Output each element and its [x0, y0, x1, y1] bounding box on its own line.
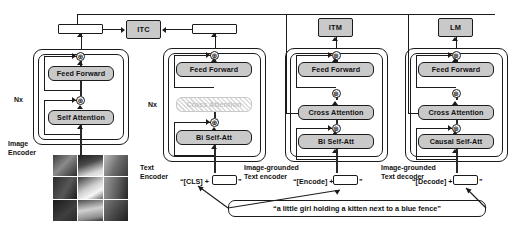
objective-itm[interactable]: ITM: [318, 18, 353, 37]
text-encoder-spine-mid: [214, 112, 216, 118]
grounded-text-encoder-cross-attention-label: Cross Attention: [308, 109, 363, 116]
wire-image-token-to-itc-arrow: [121, 27, 125, 33]
image-encoder-add-attn: ⊕: [76, 96, 85, 105]
image-patch: [53, 200, 77, 221]
image-encoder-output-arrow: [77, 33, 83, 37]
image-encoder-skip-ff-bottom: [44, 90, 80, 91]
grounded-text-decoder-causal-self-att-label: Causal Self-Att: [430, 138, 483, 145]
grounded-text-decoder-spine-arrow-attn: [452, 131, 458, 135]
grounded-text-encoder-skip-attn-bottom: [296, 159, 336, 160]
text-encoder-skip-attn-bottom: [174, 155, 214, 156]
text-encoder-caption: Text Encoder: [140, 163, 168, 181]
grounded-text-decoder-cross-attention-label: Cross Attention: [428, 109, 483, 116]
text-encoder-bi-self-att[interactable]: Bi Self-Att: [176, 130, 252, 145]
image-encoder-caption: Image Encoder: [8, 139, 36, 157]
grounded-text-encoder-skip-ff-arrow: [328, 52, 332, 58]
grounded-text-decoder-spine-arrow-cross: [452, 101, 458, 105]
wire-lm-stack-to-head-arrow: [452, 37, 458, 41]
grounded-text-encoder-spine-arrow-in: [332, 149, 338, 153]
text-encoder-skip-attn-arrow: [206, 119, 210, 125]
text-encoder-skip-ff-bottom: [174, 87, 214, 88]
grounded-text-decoder-feed-forward-label: Feed Forward: [432, 66, 480, 73]
image-encoder-self-attention-label: Self Attention: [57, 114, 105, 121]
image-encoder-feed-forward-label: Feed Forward: [57, 70, 105, 77]
grounded-text-encoder-spine-arrow-ff: [332, 58, 338, 62]
objective-itm-label: ITM: [329, 23, 342, 32]
grounded-text-decoder-skip-ff-bottom: [416, 87, 456, 88]
text-encoder-add-attn: ⊕: [210, 118, 219, 127]
image-encoder-spine-mid: [80, 81, 82, 96]
grounded-text-encoder-skip-ff-bottom: [296, 87, 336, 88]
grounded-text-decoder-spine-arrow-ff: [452, 58, 458, 62]
text-encoder-repeat-label: Nx: [148, 100, 157, 109]
text-encoder-spine-arrow-attn: [211, 127, 217, 131]
blip-architecture-diagram: ITC ITM LM Nx Feed Forward Self Attentio…: [0, 0, 515, 229]
objective-lm[interactable]: LM: [438, 18, 473, 37]
image-encoder-repeat-label: Nx: [14, 95, 23, 104]
image-encoder-skip-attn-arrow: [72, 97, 76, 103]
grounded-text-decoder-cross-attention[interactable]: Cross Attention: [418, 105, 494, 120]
grounded-text-decoder-skip-attn-left: [416, 128, 417, 159]
image-patch: [53, 177, 77, 198]
text-encoder-feed-forward[interactable]: Feed Forward: [176, 62, 252, 77]
image-patch: [78, 155, 102, 176]
image-encoder-skip-ff-left: [44, 56, 45, 90]
grounded-text-encoder-bi-self-att-label: Bi Self-Att: [318, 138, 354, 145]
grounded-text-decoder-skip-attn-arrow: [448, 125, 452, 131]
text-encoder-bi-self-att-label: Bi Self-Att: [196, 134, 232, 141]
input-image-patch-grid: [53, 155, 128, 221]
image-encoder-skip-attn-bottom: [44, 134, 80, 135]
grounded-text-encoder-spine-arrow-attn: [332, 131, 338, 135]
grounded-text-encoder-cross-attention[interactable]: Cross Attention: [298, 105, 374, 120]
grounded-text-encoder-spine-arrow-cross: [332, 101, 338, 105]
image-encoder-spine-arrow-in: [77, 125, 83, 129]
image-encoder-spine-arrow-attn: [77, 105, 83, 109]
grounded-text-encoder-feed-forward[interactable]: Feed Forward: [298, 62, 374, 77]
text-encoder-spine-lower: [214, 145, 216, 173]
grounded-text-decoder-skip-ff-left: [416, 55, 417, 87]
text-encoder-skip-attn-left: [174, 122, 175, 155]
image-encoder-self-attention[interactable]: Self Attention: [48, 110, 114, 125]
objective-itc-label: ITC: [137, 25, 150, 34]
image-patch: [53, 155, 77, 176]
text-encoder-spine-arrow-in: [211, 145, 217, 149]
grounded-text-encoder-spine-cross: [336, 120, 338, 124]
text-encoder-output-arrow: [211, 33, 217, 37]
image-patch: [104, 177, 128, 198]
grounded-text-encoder-skip-attn-arrow: [328, 125, 332, 131]
grounded-text-encoder-skip-attn-left: [296, 128, 297, 159]
text-encoder-skip-ff-left: [174, 55, 175, 87]
objective-itc[interactable]: ITC: [126, 20, 161, 39]
text-encoder-spine-arrow-ff: [211, 58, 217, 62]
wire-text-token-to-itc-arrow: [162, 27, 166, 33]
grounded-text-encoder-feed-forward-label: Feed Forward: [312, 66, 360, 73]
wire-image-token-to-itc: [103, 29, 123, 30]
wire-text-token-to-itc: [164, 29, 192, 30]
image-encoder-spine-arrow-ff: [77, 61, 83, 65]
grounded-text-decoder-spine-arrow-in: [452, 149, 458, 153]
caption-fanout-wires: [190, 182, 490, 208]
grounded-text-decoder-causal-self-att[interactable]: Causal Self-Att: [418, 134, 494, 149]
image-patch: [104, 155, 128, 176]
image-encoder-skip-ff-arrow: [72, 53, 76, 59]
text-encoder-cross-attention-label: Cross Attention: [186, 101, 241, 108]
grounded-text-decoder-feed-forward[interactable]: Feed Forward: [418, 62, 494, 77]
wire-itm-stack-to-head-arrow: [332, 37, 338, 41]
text-encoder-skip-ff-arrow: [206, 52, 210, 58]
grounded-text-encoder-skip-ff-left: [296, 55, 297, 87]
grounded-text-decoder-skip-attn-bottom: [416, 159, 456, 160]
text-encoder-feed-forward-label: Feed Forward: [190, 66, 238, 73]
grounded-text-encoder-caption: Image-grounded Text encoder: [244, 163, 299, 181]
image-patch: [78, 177, 102, 198]
image-patch: [78, 200, 102, 221]
text-encoder-cross-attention[interactable]: Cross Attention: [176, 97, 252, 112]
grounded-text-decoder-spine-cross: [456, 120, 458, 124]
grounded-text-encoder-bi-self-att[interactable]: Bi Self-Att: [298, 134, 374, 149]
image-patch: [104, 200, 128, 221]
image-encoder-spine-lower: [80, 125, 82, 155]
objective-lm-label: LM: [450, 23, 461, 32]
image-encoder-feed-forward[interactable]: Feed Forward: [48, 66, 114, 81]
grounded-text-decoder-skip-ff-arrow: [448, 52, 452, 58]
image-encoder-add-ff: ⊕: [76, 52, 85, 61]
image-encoder-skip-attn-left: [44, 100, 45, 134]
